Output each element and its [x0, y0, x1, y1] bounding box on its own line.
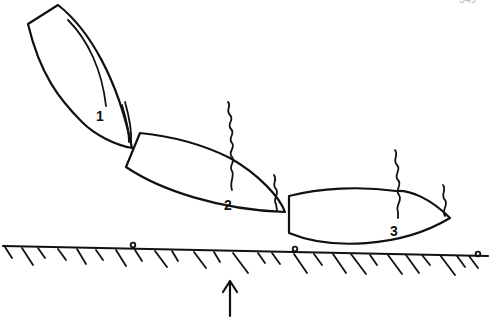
bollard-1 [131, 243, 136, 248]
docking-diagram [0, 0, 490, 321]
position-label-1: 1 [96, 108, 104, 124]
position-label-3: 3 [390, 223, 398, 239]
quay [3, 243, 488, 275]
boat-3-bow-line [443, 185, 446, 216]
quay-edge [3, 246, 488, 256]
bollard-2 [293, 247, 298, 252]
boat-3 [289, 150, 450, 244]
direction-arrow-icon [223, 281, 237, 316]
boat-2-mast-line [228, 102, 233, 190]
boat-1 [28, 5, 132, 148]
boat-3-mast-line [395, 150, 400, 218]
boat-2 [126, 102, 285, 212]
boat-1-mooring-line [68, 20, 106, 106]
position-label-2: 2 [224, 197, 232, 213]
boat-2-bow-line [274, 175, 277, 210]
bollard-3 [476, 252, 481, 257]
